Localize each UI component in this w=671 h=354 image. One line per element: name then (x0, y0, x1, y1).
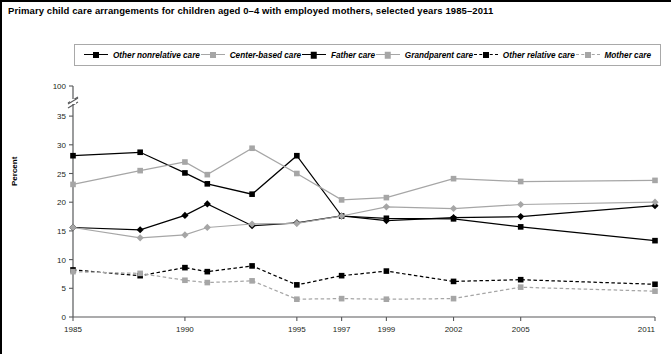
data-point-marker (204, 224, 211, 231)
data-point-marker (518, 277, 524, 283)
data-point-marker (182, 159, 188, 165)
plot-area: 0510152025303510019851990199519971999200… (0, 0, 671, 354)
data-point-marker (137, 168, 143, 174)
y-tick-label: 35 (57, 112, 66, 121)
plot-svg: 0510152025303510019851990199519971999200… (0, 0, 671, 354)
data-point-marker (652, 288, 658, 294)
data-point-marker (70, 153, 76, 159)
series-line (73, 266, 655, 285)
data-point-marker (181, 231, 188, 238)
data-point-marker (294, 282, 300, 288)
series-line (73, 202, 655, 238)
data-point-marker (205, 172, 211, 178)
data-point-marker (384, 268, 390, 274)
data-point-marker (137, 226, 144, 233)
y-ticks: 05101520253035100 (53, 82, 73, 322)
y-tick-label: 20 (57, 198, 66, 207)
data-point-marker (518, 284, 524, 290)
data-point-marker (181, 212, 188, 219)
data-point-marker (137, 149, 143, 155)
series-line (73, 272, 655, 300)
x-ticks: 19851990199519971999200220052011 (64, 317, 655, 334)
data-point-marker (451, 296, 457, 302)
data-point-marker (182, 277, 188, 283)
y-tick-label: 0 (62, 313, 67, 322)
y-tick-label: 5 (62, 284, 67, 293)
y-tick-label: 15 (57, 227, 66, 236)
x-tick-label: 1995 (288, 325, 306, 334)
x-tick-label: 2011 (638, 325, 656, 334)
x-tick-label: 1997 (333, 325, 351, 334)
data-point-marker (69, 224, 76, 231)
data-point-marker (70, 269, 76, 275)
series-other-relative-care (70, 263, 658, 288)
data-point-marker (451, 176, 457, 182)
x-tick-label: 2005 (512, 325, 530, 334)
data-point-marker (339, 197, 345, 203)
y-tick-label-100: 100 (53, 82, 67, 91)
data-point-marker (652, 178, 658, 184)
data-point-marker (137, 234, 144, 241)
data-point-marker (383, 203, 390, 210)
data-point-marker (451, 279, 457, 285)
series-center-based-care (70, 145, 658, 202)
data-point-marker (249, 278, 255, 284)
data-point-marker (652, 238, 658, 244)
data-point-marker (249, 145, 255, 151)
series-line (73, 152, 655, 240)
data-point-marker (294, 171, 300, 177)
data-point-marker (249, 263, 255, 269)
data-point-marker (652, 281, 658, 287)
data-point-marker (518, 224, 524, 230)
data-point-marker (450, 205, 457, 212)
data-point-marker (205, 181, 211, 187)
y-tick-label: 10 (57, 256, 66, 265)
series-mother-care (70, 269, 658, 302)
data-point-marker (137, 271, 143, 277)
data-series-group (69, 145, 658, 302)
data-point-marker (204, 200, 211, 207)
series-line (73, 148, 655, 200)
x-tick-label: 1999 (377, 325, 395, 334)
data-point-marker (293, 220, 300, 227)
data-point-marker (384, 296, 390, 302)
x-tick-label: 1990 (176, 325, 194, 334)
data-point-marker (205, 280, 211, 286)
x-tick-label: 1985 (64, 325, 82, 334)
data-point-marker (384, 195, 390, 201)
data-point-marker (249, 191, 255, 197)
data-point-marker (205, 269, 211, 275)
y-tick-label: 30 (57, 141, 66, 150)
series-grandparent-care (69, 199, 658, 242)
data-point-marker (182, 265, 188, 271)
axes (73, 86, 655, 317)
data-point-marker (517, 213, 524, 220)
x-tick-label: 2002 (445, 325, 463, 334)
data-point-marker (517, 201, 524, 208)
data-point-marker (518, 179, 524, 185)
chart-page: Primary child care arrangements for chil… (0, 0, 671, 354)
data-point-marker (339, 273, 345, 279)
data-point-marker (294, 296, 300, 302)
series-other-nonrelative-care (70, 149, 658, 243)
data-point-marker (294, 153, 300, 159)
data-point-marker (70, 182, 76, 188)
y-tick-label: 25 (57, 170, 66, 179)
data-point-marker (339, 296, 345, 302)
data-point-marker (182, 170, 188, 176)
